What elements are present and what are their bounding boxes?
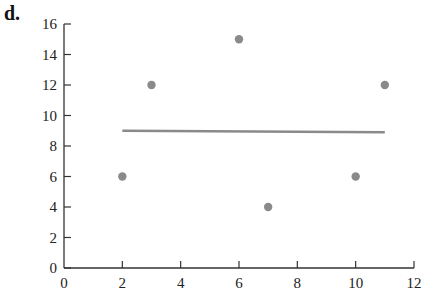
data-point (118, 172, 126, 180)
y-tick-label: 12 (42, 77, 57, 93)
x-tick-label: 0 (60, 275, 68, 291)
x-tick-label: 2 (119, 275, 127, 291)
x-tick-label: 4 (177, 275, 185, 291)
y-tick-label: 14 (42, 47, 58, 63)
y-tick-label: 16 (42, 16, 58, 32)
data-point (381, 81, 389, 89)
fit-line (122, 131, 385, 133)
x-tick-label: 12 (407, 275, 422, 291)
y-tick-label: 4 (50, 199, 58, 215)
y-tick-label: 2 (50, 230, 58, 246)
data-point (235, 35, 243, 43)
y-tick-label: 0 (50, 260, 58, 276)
y-tick-label: 10 (42, 108, 57, 124)
data-point (264, 203, 272, 211)
x-tick-label: 8 (294, 275, 302, 291)
scatter-chart: 0246810121416024681012 (0, 0, 431, 298)
x-tick-label: 10 (348, 275, 363, 291)
x-tick-label: 6 (235, 275, 243, 291)
data-point (351, 172, 359, 180)
y-tick-label: 6 (50, 169, 58, 185)
data-point (147, 81, 155, 89)
y-tick-label: 8 (50, 138, 58, 154)
